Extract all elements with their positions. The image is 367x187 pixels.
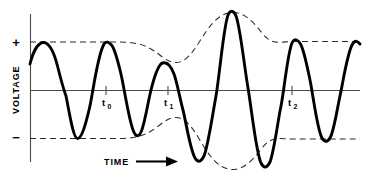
y-axis-title: VOLTAGE: [11, 66, 21, 114]
tick-label-t2-sub: 2: [294, 103, 298, 110]
tick-label-t2: t 2: [288, 97, 298, 110]
tick-label-t1-main: t: [164, 97, 168, 108]
waveform-figure: t 0 t 1 t 2 + − VOLTAGE TIME: [0, 0, 367, 187]
tick-label-t0-sub: 0: [108, 103, 112, 110]
tick-label-t1: t 1: [164, 97, 174, 110]
signal-waveform: [30, 11, 360, 167]
x-axis-title: TIME: [104, 157, 129, 167]
y-axis-negative-label: −: [12, 130, 20, 145]
y-axis-positive-label: +: [12, 35, 20, 50]
tick-label-t0-main: t: [102, 97, 106, 108]
waveform-plot: t 0 t 1 t 2 + − VOLTAGE TIME: [0, 0, 367, 187]
tick-label-t2-main: t: [288, 97, 292, 108]
tick-label-t0: t 0: [102, 97, 112, 110]
time-arrow-icon: [136, 157, 178, 167]
upper-envelope-curve: [30, 12, 360, 62]
lower-envelope-curve: [30, 117, 360, 169]
tick-label-t1-sub: 1: [170, 103, 174, 110]
